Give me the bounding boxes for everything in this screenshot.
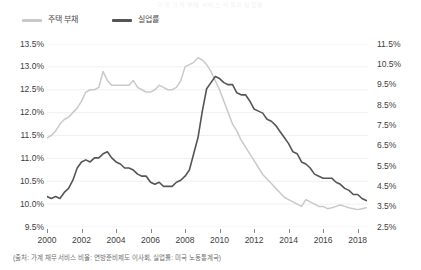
y-tick-left: 12.5% xyxy=(0,85,44,94)
series-line-housing-debt xyxy=(47,58,366,210)
plot-area xyxy=(47,44,368,227)
y-tick-left: 11.0% xyxy=(0,154,44,163)
y-tick-right: 6.5% xyxy=(377,141,421,150)
x-tick-label: 2002 xyxy=(72,235,91,245)
legend-label-housing-debt: 주택 부채 xyxy=(48,15,78,25)
x-tick-label: 2018 xyxy=(348,235,367,245)
y-tick-left: 10.5% xyxy=(0,177,44,186)
x-tick-mark xyxy=(289,229,290,233)
x-tick-label: 2012 xyxy=(245,235,264,245)
y-tick-left: 10.0% xyxy=(0,200,44,209)
legend-swatch-unemployment xyxy=(112,19,132,22)
gridlines xyxy=(47,44,368,227)
x-tick-mark xyxy=(254,229,255,233)
y-tick-right: 3.5% xyxy=(377,202,421,211)
y-tick-right: 5.5% xyxy=(377,162,421,171)
y-tick-right: 4.5% xyxy=(377,182,421,191)
y-tick-right: 8.5% xyxy=(377,101,421,110)
x-tick-mark xyxy=(220,229,221,233)
series-line-unemployment xyxy=(47,77,366,201)
chart-legend: 주택 부채 실업률 xyxy=(22,13,159,27)
y-tick-left: 11.5% xyxy=(0,131,44,140)
y-tick-left: 13.5% xyxy=(0,40,44,49)
x-tick-mark xyxy=(47,229,48,233)
x-axis: 2000200220042006200820102012201420162018 xyxy=(47,232,368,246)
x-tick-mark xyxy=(151,229,152,233)
chart-title: 미국 가계 부채 서비스 비율과 실업률 xyxy=(0,0,421,10)
x-tick-label: 2014 xyxy=(279,235,298,245)
chart-footnote: (출처: 가계 채무 서비스 비율: 연방준비제도 이사회, 실업률: 미국 노… xyxy=(13,252,221,262)
y-tick-right: 9.5% xyxy=(377,80,421,89)
plot-svg xyxy=(47,44,368,227)
y-tick-right: 2.5% xyxy=(377,223,421,232)
y-tick-right: 7.5% xyxy=(377,121,421,130)
x-tick-mark xyxy=(185,229,186,233)
x-tick-label: 2016 xyxy=(314,235,333,245)
legend-item-housing-debt[interactable]: 주택 부채 xyxy=(22,13,78,27)
legend-swatch-housing-debt xyxy=(22,19,42,22)
x-tick-mark xyxy=(116,229,117,233)
x-tick-mark xyxy=(323,229,324,233)
legend-label-unemployment: 실업률 xyxy=(138,15,159,25)
x-tick-label: 2008 xyxy=(176,235,195,245)
y-tick-right: 11.5% xyxy=(377,40,421,49)
legend-item-unemployment[interactable]: 실업률 xyxy=(112,13,159,27)
y-tick-left: 12.0% xyxy=(0,108,44,117)
x-tick-label: 2010 xyxy=(210,235,229,245)
y-tick-left: 9.5% xyxy=(0,223,44,232)
chart-container: 미국 가계 부채 서비스 비율과 실업률 주택 부채 실업률 13.5%13.0… xyxy=(0,0,421,270)
y-tick-right: 10.5% xyxy=(377,60,421,69)
x-tick-label: 2004 xyxy=(107,235,126,245)
x-tick-mark xyxy=(82,229,83,233)
x-tick-label: 2000 xyxy=(38,235,57,245)
x-tick-label: 2006 xyxy=(141,235,160,245)
x-tick-mark xyxy=(358,229,359,233)
y-tick-left: 13.0% xyxy=(0,62,44,71)
